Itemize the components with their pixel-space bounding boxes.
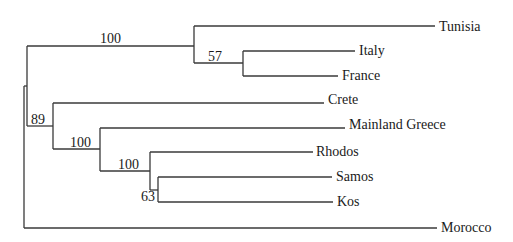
taxon-label-mainland-greece: Mainland Greece bbox=[349, 117, 446, 132]
clade-tunisia-italy-france bbox=[194, 26, 435, 76]
taxon-label-kos: Kos bbox=[337, 194, 360, 209]
taxon-label-samos: Samos bbox=[336, 169, 373, 184]
taxon-label-france: France bbox=[342, 68, 380, 83]
support-value: 89 bbox=[31, 112, 45, 127]
support-value: 100 bbox=[118, 157, 139, 172]
taxon-label-morocco: Morocco bbox=[441, 220, 492, 235]
ingroup-node bbox=[27, 46, 194, 126]
support-value: 100 bbox=[70, 135, 91, 150]
taxon-label-tunisia: Tunisia bbox=[439, 19, 481, 34]
clade-greek bbox=[53, 103, 345, 202]
support-value: 100 bbox=[100, 31, 121, 46]
taxon-label-crete: Crete bbox=[328, 92, 358, 107]
phylogenetic-tree: Tunisia Italy France Crete Mainland Gree… bbox=[0, 0, 513, 242]
root-node bbox=[24, 86, 437, 228]
support-value: 63 bbox=[141, 189, 155, 204]
support-value: 57 bbox=[208, 49, 222, 64]
taxon-label-italy: Italy bbox=[359, 43, 385, 58]
taxon-label-rhodos: Rhodos bbox=[316, 144, 359, 159]
